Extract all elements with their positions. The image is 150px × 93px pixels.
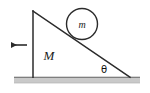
physics-diagram-canvas: M m θ: [0, 0, 150, 93]
ground-surface-group: [14, 77, 140, 83]
wedge-mass-label: M: [43, 48, 56, 63]
ground-fill: [14, 78, 140, 84]
incline-angle-label: θ: [101, 64, 107, 75]
physics-diagram-svg: M m θ: [0, 0, 150, 93]
ball-mass-label: m: [78, 19, 85, 30]
